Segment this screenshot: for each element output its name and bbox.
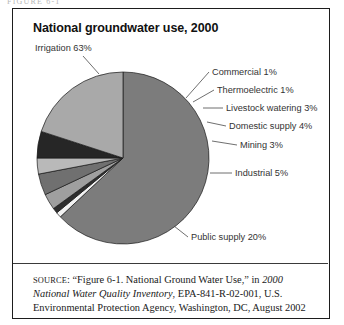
leader-line xyxy=(174,226,188,237)
pie-slice-label: Domestic supply 4% xyxy=(229,121,312,131)
pie-slice-label: Mining 3% xyxy=(240,140,283,150)
pie-slice-label: Industrial 5% xyxy=(235,168,288,178)
pie-slice-label: Livestock watering 3% xyxy=(226,103,317,113)
figure-page: FIGURE 6-1 National groundwater use, 200… xyxy=(0,0,344,325)
source-note: SOURCE: “Figure 6-1. National Ground Wat… xyxy=(33,273,315,314)
leader-line xyxy=(212,141,237,145)
pie-chart: Irrigation 63%Commercial 1%Thermoelectri… xyxy=(13,9,327,263)
pie-chart-svg: Irrigation 63%Commercial 1%Thermoelectri… xyxy=(13,9,327,263)
leader-line xyxy=(207,122,226,126)
pie-slice-label: Public supply 20% xyxy=(191,232,266,242)
source-divider xyxy=(13,263,328,264)
pie-slices xyxy=(37,72,209,244)
source-text-part1: : “Figure 6-1. National Ground Water Use… xyxy=(67,274,262,285)
leader-line xyxy=(193,90,214,102)
pie-slice-label: Thermoelectric 1% xyxy=(217,85,294,95)
pie-slice-label: Irrigation 63% xyxy=(35,43,92,53)
leader-line xyxy=(186,72,209,98)
figure-frame: National groundwater use, 2000 Irrigatio… xyxy=(12,8,330,319)
pie-slice-label: Commercial 1% xyxy=(212,67,277,77)
running-head: FIGURE 6-1 xyxy=(7,0,127,6)
leader-line xyxy=(83,56,99,74)
source-prefix: SOURCE xyxy=(33,276,67,285)
